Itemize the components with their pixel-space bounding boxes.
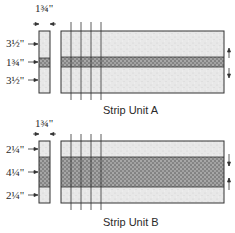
pressing-direction-arrows xyxy=(228,48,231,78)
strip-label-top-b: 2¼" xyxy=(6,144,24,155)
segment-width-label-a: 1¾" xyxy=(35,3,53,14)
width-dimension-arrows xyxy=(33,23,56,26)
width-dimension-arrows xyxy=(33,133,56,136)
strip-label-bottom-a: 3½" xyxy=(6,75,24,86)
segment-width-label-b: 1¾" xyxy=(35,118,53,129)
pressing-direction-arrows xyxy=(228,154,231,190)
strip-set-b xyxy=(61,141,224,203)
strip-label-middle-a: 1¾" xyxy=(6,57,24,68)
strip-unit-a xyxy=(28,22,231,100)
strip-label-arrows xyxy=(28,43,38,82)
strip-set-a xyxy=(61,31,224,93)
strip-label-middle-b: 4¼" xyxy=(6,167,24,178)
segment-piece-b xyxy=(39,141,50,203)
strip-unit-b xyxy=(28,133,231,211)
caption-strip-unit-a: Strip Unit A xyxy=(103,104,158,116)
segment-piece-a xyxy=(39,31,50,93)
strip-label-arrows xyxy=(28,148,38,197)
strip-label-top-a: 3½" xyxy=(6,38,24,49)
strip-label-bottom-b: 2¼" xyxy=(6,190,24,201)
caption-strip-unit-b: Strip Unit B xyxy=(103,216,159,228)
